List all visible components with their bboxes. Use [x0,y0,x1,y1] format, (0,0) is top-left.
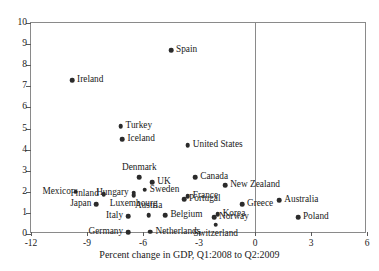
point-label-turkey: Turkey [126,122,153,131]
data-point-switzerland [214,222,219,227]
point-label-mexico: Mexico [42,187,70,196]
point-label-greece: Greece [247,200,273,209]
y-tick-label-2: 2 [22,187,27,197]
point-label-norway: Norway [219,212,249,221]
data-point-poland [296,215,301,220]
x-tick-label-0: 0 [253,239,258,249]
point-label-denmark: Denmark [122,163,157,172]
data-point-iceland [120,137,125,142]
x-axis-title: Percent change in GDP, Q1:2008 to Q2:200… [0,250,379,260]
data-point-austria [146,213,151,218]
data-point-finland [102,192,107,197]
y-tick-label-3: 3 [22,166,27,176]
data-point-canada [193,175,198,180]
data-point-australia [277,198,282,203]
point-label-belgium: Belgium [170,210,202,219]
y-tick-label-8: 8 [22,60,27,70]
data-point-japan [94,202,99,207]
plot-area: 012345678910 -12-9-6-3036 SpainIrelandTu… [30,22,366,233]
x-tick-label--12: -12 [25,239,38,249]
data-point-italy [126,214,131,219]
point-label-new-zealand: New Zealand [230,181,280,190]
point-label-finland: Finland [70,189,98,198]
x-tick [367,232,368,236]
data-point-norway [212,215,217,220]
data-point-spain [169,48,174,53]
point-label-iceland: Iceland [127,134,154,143]
point-label-spain: Spain [176,46,197,55]
data-point-portugal [182,197,187,202]
point-label-australia: Australia [284,196,318,205]
point-label-japan: Japan [70,200,91,209]
point-label-portugal: Portugal [189,195,221,204]
x-tick [311,232,312,236]
point-label-ireland: Ireland [77,75,103,84]
data-point-netherlands [148,230,153,235]
point-label-austria: Austria [135,201,162,210]
data-point-ireland [70,78,75,83]
x-tick-label--9: -9 [83,239,91,249]
y-tick-label-1: 1 [22,208,27,218]
data-point-united-states [186,143,191,148]
point-label-netherlands: Netherlands [155,227,200,236]
x-tick-label-6: 6 [365,239,370,249]
data-point-germany [126,230,131,235]
x-tick-label--6: -6 [139,239,147,249]
data-point-denmark [137,175,142,180]
x-tick-label-3: 3 [309,239,314,249]
x-tick [255,232,256,236]
data-point-belgium [163,213,168,218]
point-label-poland: Poland [303,212,329,221]
scatter-chart-page: 012345678910 -12-9-6-3036 SpainIrelandTu… [0,0,379,271]
y-tick-label-4: 4 [22,145,27,155]
data-point-sweden [143,187,148,192]
point-label-germany: Germany [88,228,123,237]
x-tick [143,232,144,236]
point-label-italy: Italy [106,211,123,220]
point-label-united-states: United States [193,141,243,150]
y-tick-label-10: 10 [18,18,28,28]
data-point-luxembourg [131,193,136,198]
data-point-new-zealand [223,183,228,188]
data-point-greece [240,202,245,207]
x-tick-label--3: -3 [195,239,203,249]
data-point-turkey [118,124,123,129]
point-label-canada: Canada [200,172,228,181]
x-tick [31,232,32,236]
y-tick-label-9: 9 [22,39,27,49]
y-tick-label-7: 7 [22,82,27,92]
y-tick-label-5: 5 [22,124,27,134]
y-tick-label-6: 6 [22,103,27,113]
point-label-sweden: Sweden [150,185,179,194]
